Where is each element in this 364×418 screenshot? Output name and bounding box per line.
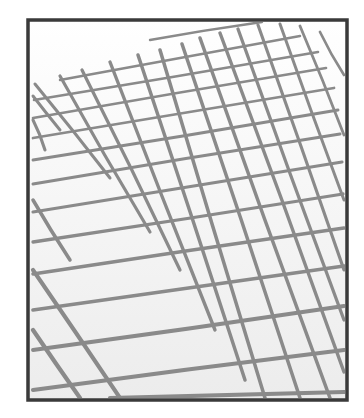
perspective-grid-illustration bbox=[0, 0, 364, 418]
